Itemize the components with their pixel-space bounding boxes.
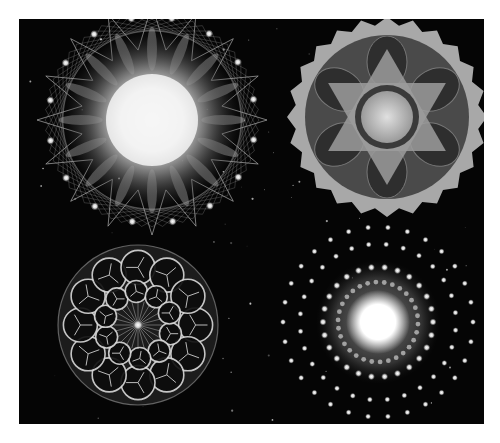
artwork-panel — [19, 19, 484, 424]
dotted-rings-glow — [280, 225, 476, 420]
mandala-artwork — [19, 19, 484, 424]
rosette-circle-mandala — [58, 245, 218, 405]
star-spiked-mandala — [37, 19, 267, 235]
scalloped-hexagram-kaleidoscope — [287, 19, 484, 217]
